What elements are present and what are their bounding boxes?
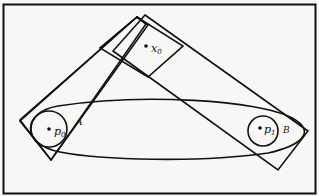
label-A: A (75, 117, 83, 127)
point-p1 (258, 126, 262, 130)
point-x0 (144, 44, 148, 48)
left-strip-rectangle (20, 17, 146, 160)
point-p0 (47, 127, 51, 131)
right-strip (113, 15, 308, 170)
label-p0: p0 (54, 125, 66, 139)
label-p1: p1 (264, 123, 276, 137)
label-B: B (282, 125, 290, 135)
left-strip (20, 17, 148, 160)
diagram-canvas: x0 p0 p1 A B (0, 0, 319, 196)
x0-square (100, 17, 183, 77)
label-x0: x0 (151, 42, 162, 56)
